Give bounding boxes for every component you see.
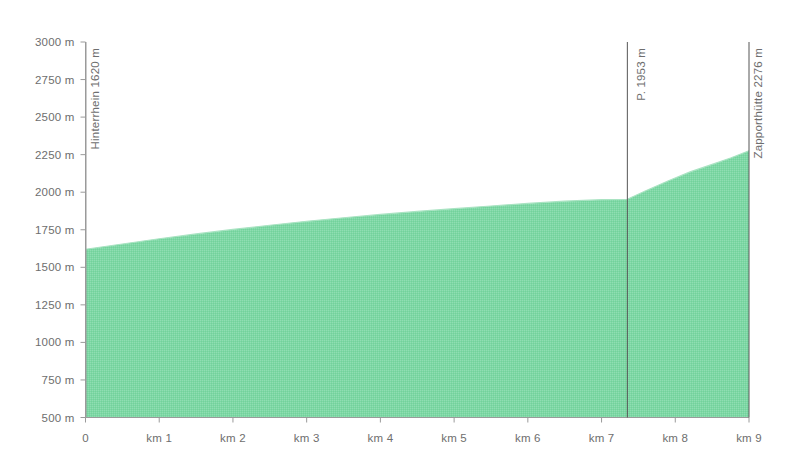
marker-label-zapporthuette: Zapporthütte 2276 m	[753, 48, 765, 159]
x-axis-tick-label: km 3	[294, 432, 320, 444]
profile-plot-area	[0, 0, 806, 476]
y-axis-tick-label: 1500 m	[0, 261, 75, 273]
y-axis-tick-label: 1250 m	[0, 299, 75, 311]
marker-label-hinterrhein: Hinterrhein 1620 m	[90, 48, 102, 149]
elevation-area-fill	[86, 151, 750, 418]
x-axis-tick-label: km 7	[589, 432, 615, 444]
x-axis-tick-label: km 9	[736, 432, 762, 444]
elevation-profile-chart: 3000 m2750 m2500 m2250 m2000 m1750 m1500…	[0, 0, 806, 476]
y-axis-tick-label: 1750 m	[0, 224, 75, 236]
x-axis-tick-label: km 6	[515, 432, 541, 444]
y-axis-tick-label: 500 m	[0, 412, 75, 424]
y-axis-ticks	[81, 42, 86, 418]
x-axis-tick-label: km 1	[146, 432, 172, 444]
y-axis-tick-label: 2000 m	[0, 186, 75, 198]
x-axis-tick-label: km 5	[441, 432, 467, 444]
x-axis-tick-label: km 8	[662, 432, 688, 444]
y-axis-tick-label: 1000 m	[0, 336, 75, 348]
x-axis-tick-label: km 4	[368, 432, 394, 444]
x-axis-tick-label: 0	[82, 432, 89, 444]
y-axis-tick-label: 3000 m	[0, 36, 75, 48]
x-axis-tick-label: km 2	[220, 432, 246, 444]
y-axis-tick-label: 2500 m	[0, 111, 75, 123]
y-axis-tick-label: 2250 m	[0, 149, 75, 161]
y-axis-tick-label: 750 m	[0, 374, 75, 386]
marker-label-punkt-1953: P. 1953 m	[636, 48, 648, 101]
x-axis-ticks	[86, 418, 750, 423]
y-axis-tick-label: 2750 m	[0, 74, 75, 86]
